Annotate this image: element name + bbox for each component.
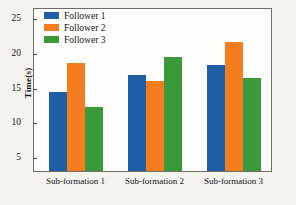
y-tick-label: 5 <box>0 152 21 162</box>
x-tick-label: Sub-formation 2 <box>110 176 200 186</box>
y-tick-label: 15 <box>0 83 21 93</box>
x-tick-label: Sub-formation 3 <box>189 176 279 186</box>
legend-swatch-icon <box>44 12 59 19</box>
y-tick-label: 25 <box>0 13 21 23</box>
bar <box>67 63 85 171</box>
legend-item: Follower 2 <box>44 22 105 33</box>
legend-item: Follower 3 <box>44 34 105 45</box>
legend-label: Follower 2 <box>64 23 105 33</box>
legend-label: Follower 1 <box>64 11 105 21</box>
bar <box>225 42 243 171</box>
bar <box>85 107 103 171</box>
legend-swatch-icon <box>44 36 59 43</box>
bar <box>243 78 261 171</box>
bar <box>49 92 67 171</box>
y-axis-title: Time(s) <box>23 53 33 113</box>
y-tick-label: 20 <box>0 48 21 58</box>
bar-chart-figure: Time(s) 510152025 Sub-formation 1Sub-for… <box>0 0 296 205</box>
x-tick-label: Sub-formation 1 <box>31 176 121 186</box>
bar <box>207 65 225 171</box>
chart-legend: Follower 1Follower 2Follower 3 <box>44 10 105 45</box>
bar <box>164 57 182 171</box>
bar <box>146 81 164 171</box>
legend-label: Follower 3 <box>64 35 105 45</box>
legend-swatch-icon <box>44 24 59 31</box>
y-tick-label: 10 <box>0 117 21 127</box>
legend-item: Follower 1 <box>44 10 105 21</box>
bar <box>128 75 146 171</box>
